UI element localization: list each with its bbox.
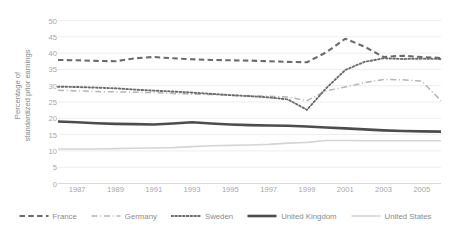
legend-label: France — [53, 212, 77, 221]
legend-label: Sweden — [205, 212, 233, 221]
series-line-germany — [58, 80, 441, 101]
legend-item-united-kingdom[interactable]: United Kingdom — [247, 211, 336, 221]
line-chart: Percentage of standardized prior earning… — [0, 0, 450, 234]
x-axis-ticks: 1987198919911993199519971999200120032005 — [0, 185, 450, 199]
y-tick-label: 45 — [40, 32, 57, 41]
series-line-united-states — [58, 140, 441, 148]
y-tick-label: 50 — [40, 16, 57, 25]
legend-swatch-united-states-icon — [351, 211, 381, 221]
x-tick-label: 2003 — [375, 185, 392, 194]
chart-legend: FranceGermanySwedenUnited KingdomUnited … — [0, 206, 450, 226]
legend-label: United States — [385, 212, 432, 221]
legend-swatch-france-icon — [19, 211, 49, 221]
x-tick-label: 1991 — [145, 185, 162, 194]
legend-label: Germany — [125, 212, 157, 221]
series-line-united-kingdom — [58, 122, 441, 132]
legend-item-united-states[interactable]: United States — [351, 211, 432, 221]
legend-item-sweden[interactable]: Sweden — [171, 211, 233, 221]
legend-swatch-sweden-icon — [171, 211, 201, 221]
legend-swatch-united-kingdom-icon — [247, 211, 277, 221]
y-tick-label: 25 — [40, 98, 57, 107]
y-tick-label: 35 — [40, 65, 57, 74]
y-tick-label: 15 — [40, 130, 57, 139]
x-tick-label: 1999 — [298, 185, 315, 194]
legend-item-france[interactable]: France — [19, 211, 77, 221]
x-tick-label: 1989 — [107, 185, 124, 194]
y-tick-label: 40 — [40, 49, 57, 58]
series-lines — [58, 39, 441, 149]
legend-item-germany[interactable]: Germany — [91, 211, 157, 221]
y-tick-label: 10 — [40, 146, 57, 155]
y-tick-label: 5 — [40, 163, 57, 172]
y-tick-label: 20 — [40, 114, 57, 123]
x-tick-label: 1993 — [184, 185, 201, 194]
x-tick-label: 2005 — [413, 185, 430, 194]
x-tick-label: 1997 — [260, 185, 277, 194]
legend-label: United Kingdom — [281, 212, 336, 221]
x-tick-label: 2001 — [337, 185, 354, 194]
x-tick-label: 1995 — [222, 185, 239, 194]
gridlines — [58, 21, 441, 184]
legend-swatch-germany-icon — [91, 211, 121, 221]
y-tick-label: 30 — [40, 81, 57, 90]
x-tick-label: 1987 — [69, 185, 86, 194]
